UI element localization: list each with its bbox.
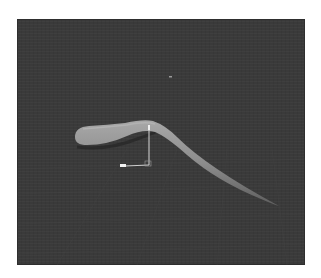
3d-viewport[interactable] [17,19,305,265]
scene-render [17,19,305,265]
gizmo-arrow-head [120,164,126,167]
light-speck [169,76,172,78]
floor-grid [17,149,305,265]
tube-object [75,120,279,206]
